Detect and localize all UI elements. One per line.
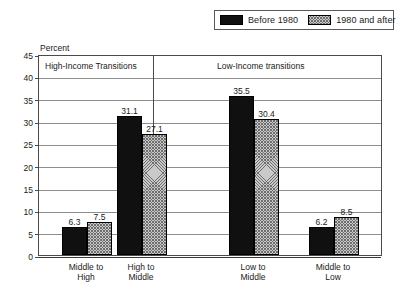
category-label-line: Low to <box>240 262 265 272</box>
bar-group-container: 6.37.531.127.135.530.46.28.5 <box>39 56 381 255</box>
bar-value-label: 7.5 <box>94 213 106 222</box>
category-label-line: Middle <box>128 272 155 282</box>
gridline <box>39 257 381 258</box>
bar-value-label: 30.4 <box>258 110 275 119</box>
legend-label-before-1980: Before 1980 <box>248 15 298 25</box>
category-label: Middle toHigh <box>69 262 104 282</box>
bar-1980-and-after <box>334 217 359 255</box>
y-axis-tick-label: 5 <box>28 230 33 239</box>
bar-1980-and-after <box>254 119 279 255</box>
bar-value-label: 8.5 <box>341 208 353 217</box>
bar-before-1980 <box>229 96 254 255</box>
y-axis-tick-label: 0 <box>28 253 33 262</box>
bar-value-label: 27.1 <box>146 125 163 134</box>
category-label-line: Middle <box>240 272 265 282</box>
y-axis-tick-label: 10 <box>24 208 33 217</box>
bar-before-1980 <box>117 116 142 255</box>
category-label-line: Middle to <box>69 262 104 272</box>
y-axis-tick-label: 35 <box>24 96 33 105</box>
legend-entry-before-1980: Before 1980 <box>220 15 298 25</box>
y-axis-tick-label: 20 <box>24 163 33 172</box>
bar-value-label: 6.2 <box>316 218 328 227</box>
category-label: High toMiddle <box>128 262 155 282</box>
bar-1980-and-after <box>142 134 167 255</box>
hatched-swatch-icon <box>308 15 331 25</box>
y-axis-tick-label: 40 <box>24 74 33 83</box>
y-axis-tick-label: 30 <box>24 119 33 128</box>
legend-entry-1980-and-after: 1980 and after <box>308 15 395 25</box>
bar-value-label: 6.3 <box>69 218 81 227</box>
legend-label-1980-and-after: 1980 and after <box>336 15 395 25</box>
category-label-line: High to <box>128 262 155 272</box>
bar-before-1980 <box>309 227 334 255</box>
bar-1980-and-after <box>87 222 112 256</box>
category-label: Low toMiddle <box>240 262 265 282</box>
category-label: Middle toLow <box>316 262 351 282</box>
plot-area: 051015202530354045 High-Income Transitio… <box>38 55 382 256</box>
y-axis-tick-label: 25 <box>24 141 33 150</box>
bar-before-1980 <box>62 227 87 255</box>
y-axis-tick-label: 45 <box>24 52 33 61</box>
y-axis-tick-label: 15 <box>24 186 33 195</box>
category-label-line: High <box>69 272 104 282</box>
chart-legend: Before 1980 1980 and after <box>214 10 394 30</box>
bar-value-label: 31.1 <box>121 107 138 116</box>
solid-swatch-icon <box>220 15 243 25</box>
y-axis-title: Percent <box>40 43 69 53</box>
category-label-line: Middle to <box>316 262 351 272</box>
y-axis-tick <box>35 257 39 258</box>
bar-value-label: 35.5 <box>233 87 250 96</box>
category-label-line: Low <box>316 272 351 282</box>
